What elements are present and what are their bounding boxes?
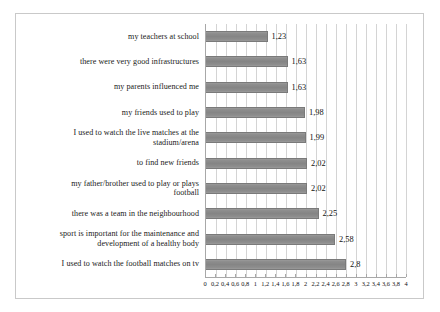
axis-tick-label: 0,2	[211, 280, 219, 287]
axis-tick-label: 3,6	[382, 280, 390, 287]
axis-tick-label: 2,6	[332, 280, 340, 287]
axis-tick-mark	[215, 274, 216, 277]
bar-row: 1,63	[206, 49, 406, 74]
chart-body: my teachers at schoolthere were very goo…	[16, 14, 423, 298]
category-label-row: there were very good infrastructures	[18, 49, 202, 74]
category-label-row: my father/brother used to play or plays …	[18, 176, 202, 201]
axis-tick-label: 0	[203, 280, 206, 287]
bar[interactable]	[206, 158, 307, 169]
axis-tick-mark	[205, 274, 206, 277]
bar[interactable]	[206, 132, 306, 143]
bar-value-label: 2,02	[307, 184, 326, 193]
axis-tick-label: 2,2	[312, 280, 320, 287]
bar-value-label: 1,98	[305, 108, 324, 117]
axis-tick-mark	[356, 274, 357, 277]
bar-value-label: 1,63	[288, 83, 307, 92]
plot-area: 1,231,631,631,981,992,022,022,252,582,8	[205, 24, 406, 277]
axis-tick-label: 4	[404, 280, 407, 287]
bar-value-label: 1,23	[268, 32, 287, 41]
axis-tick-label: 1	[254, 280, 257, 287]
category-label: my father/brother used to play or plays …	[71, 179, 199, 199]
category-label: to find new friends	[137, 158, 199, 168]
category-label-row: my parents influenced me	[18, 75, 202, 100]
category-label-row: I used to watch the football matches on …	[18, 252, 202, 277]
axis-tick-mark	[225, 274, 226, 277]
axis-tick-mark	[306, 274, 307, 277]
axis-tick-label: 0,4	[221, 280, 229, 287]
axis-tick-label: 1,4	[271, 280, 279, 287]
bar-row: 1,23	[206, 24, 406, 49]
category-label-row: my friends used to play	[18, 100, 202, 125]
bar-row: 1,63	[206, 75, 406, 100]
bar-value-label: 2,58	[335, 235, 354, 244]
axis-tick-label: 3	[354, 280, 357, 287]
axis-tick-mark	[285, 274, 286, 277]
gridline	[406, 24, 407, 277]
bar-row: 1,99	[206, 125, 406, 150]
axis-tick-mark	[295, 274, 296, 277]
category-label: I used to watch the football matches on …	[62, 259, 199, 269]
axis-tick-label: 3,2	[362, 280, 370, 287]
bar[interactable]	[206, 208, 319, 219]
axis-tick-label: 1,6	[281, 280, 289, 287]
axis-tick-mark	[245, 274, 246, 277]
category-label: my friends used to play	[122, 108, 199, 118]
category-label: there was a team in the neighbourhood	[72, 209, 199, 219]
axis-tick-label: 2,4	[322, 280, 330, 287]
axis-tick-mark	[386, 274, 387, 277]
category-label: there were very good infrastructures	[80, 57, 199, 67]
axis-tick-mark	[366, 274, 367, 277]
axis-tick-label: 2,8	[342, 280, 350, 287]
bar-value-label: 1,99	[306, 133, 325, 142]
category-label-row: my teachers at school	[18, 24, 202, 49]
axis-tick-mark	[396, 274, 397, 277]
bar-value-label: 1,63	[288, 57, 307, 66]
axis-tick-label: 0,8	[241, 280, 249, 287]
category-label-row: I used to watch the live matches at the …	[18, 125, 202, 150]
axis-tick-label: 1,8	[291, 280, 299, 287]
bar-row: 2,02	[206, 176, 406, 201]
bar-series: 1,231,631,631,981,992,022,022,252,582,8	[206, 24, 406, 277]
bar[interactable]	[206, 31, 268, 42]
value-axis: 00,20,40,60,811,21,41,61,822,22,42,62,83…	[205, 277, 406, 299]
axis-tick-mark	[326, 274, 327, 277]
bar-value-label: 2,02	[307, 159, 326, 168]
category-label-row: there was a team in the neighbourhood	[18, 201, 202, 226]
axis-tick-mark	[275, 274, 276, 277]
chart-frame: my teachers at schoolthere were very goo…	[15, 13, 424, 299]
axis-tick-label: 3,4	[372, 280, 380, 287]
axis-tick-mark	[406, 274, 407, 277]
axis-tick-mark	[265, 274, 266, 277]
axis-tick-mark	[255, 274, 256, 277]
axis-tick-label: 2	[304, 280, 307, 287]
bar[interactable]	[206, 56, 288, 67]
axis-line	[205, 277, 406, 278]
axis-tick-mark	[316, 274, 317, 277]
axis-tick-mark	[235, 274, 236, 277]
axis-tick-mark	[346, 274, 347, 277]
bar[interactable]	[206, 183, 307, 194]
category-label: my teachers at school	[128, 32, 199, 42]
bar[interactable]	[206, 234, 335, 245]
bar-row: 2,02	[206, 150, 406, 175]
category-label-row: to find new friends	[18, 150, 202, 175]
category-label-row: sport is important for the maintenance a…	[18, 226, 202, 251]
axis-tick-label: 1,2	[261, 280, 269, 287]
bar-row: 1,98	[206, 100, 406, 125]
category-label: I used to watch the live matches at the …	[73, 128, 199, 148]
bar[interactable]	[206, 259, 346, 270]
bar[interactable]	[206, 107, 305, 118]
bar-value-label: 2,8	[346, 260, 360, 269]
axis-tick-label: 0,6	[231, 280, 239, 287]
bar-value-label: 2,25	[319, 209, 338, 218]
axis-tick-label: 3,8	[392, 280, 400, 287]
bar[interactable]	[206, 82, 288, 93]
category-label: my parents influenced me	[114, 82, 199, 92]
axis-tick-mark	[336, 274, 337, 277]
category-label: sport is important for the maintenance a…	[60, 229, 199, 249]
axis-tick-mark	[376, 274, 377, 277]
bar-row: 2,25	[206, 201, 406, 226]
bar-row: 2,58	[206, 226, 406, 251]
category-axis-labels: my teachers at schoolthere were very goo…	[18, 24, 202, 277]
